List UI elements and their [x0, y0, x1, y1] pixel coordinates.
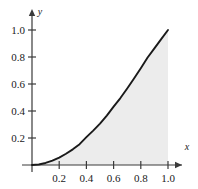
plot-area: 0.2 0.4 0.6 0.8 1.0 0.2 0.4 0.6 0.8 1.0 …	[0, 0, 198, 189]
y-tick-label: 0.8	[11, 51, 25, 63]
x-axis-arrow-icon	[175, 162, 182, 168]
x-tick-label: 0.8	[134, 172, 148, 184]
x-tick-label: 1.0	[161, 172, 175, 184]
x-axis-label: x	[184, 141, 190, 152]
x-tick-label: 0.4	[80, 172, 94, 184]
x-tick-label: 0.6	[107, 172, 121, 184]
y-tick-label: 0.2	[11, 132, 25, 144]
chart-figure: 0.2 0.4 0.6 0.8 1.0 0.2 0.4 0.6 0.8 1.0 …	[0, 0, 198, 189]
x-axis-tick-labels: 0.2 0.4 0.6 0.8 1.0	[52, 172, 175, 184]
y-tick-label: 0.6	[11, 78, 25, 90]
y-tick-label: 1.0	[11, 24, 25, 36]
area-under-curve-shaded-region	[32, 30, 168, 165]
x-tick-label: 0.2	[52, 172, 66, 184]
y-axis-arrow-icon	[29, 9, 35, 16]
y-tick-label: 0.4	[11, 105, 25, 117]
y-axis	[29, 9, 35, 172]
y-axis-label: y	[37, 6, 43, 17]
y-axis-tick-labels: 0.2 0.4 0.6 0.8 1.0	[11, 24, 25, 144]
